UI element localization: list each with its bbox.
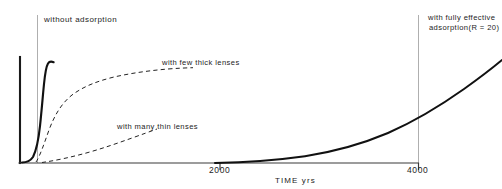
x-tick-label-4000: 4000 xyxy=(407,165,428,175)
curve-many-thin-lenses xyxy=(42,129,157,163)
annotation-many-thin-lenses: with many thin lenses xyxy=(117,122,198,132)
annotation-fully-effective-line1: with fully effective xyxy=(428,13,495,22)
annotation-fully-effective-line2: adsorption(R = 20) xyxy=(429,23,499,33)
annotation-few-thick-lenses: with few thick lenses xyxy=(162,58,240,68)
x-tick-label-2000: 2000 xyxy=(209,165,230,175)
curve-fully-effective-adsorption xyxy=(215,60,502,163)
breakthrough-curve-plot xyxy=(0,0,502,189)
annotation-fully-effective-adsorption: with fully effective adsorption(R = 20) xyxy=(428,13,499,33)
annotation-without-adsorption: without adsorption xyxy=(44,15,117,25)
figure-canvas: without adsorption with few thick lenses… xyxy=(0,0,502,189)
curve-few-thick-lenses xyxy=(36,68,193,162)
x-axis-title: TIME yrs xyxy=(275,176,316,186)
